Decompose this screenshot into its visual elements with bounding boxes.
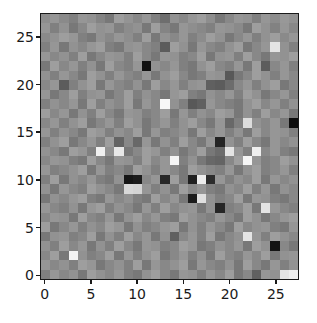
y-tick-mark [36,227,40,228]
y-tick-label: 25 [16,30,34,44]
x-tick-mark [275,280,276,284]
x-tick-label: 10 [128,287,146,301]
y-tick-label: 15 [16,125,34,139]
x-tick-label: 5 [86,287,95,301]
x-tick-label: 20 [221,287,239,301]
y-tick-mark [36,131,40,132]
y-tick-mark [36,179,40,180]
matplotlib-figure: 05101520250510152025 [0,0,317,323]
y-tick-label: 5 [25,221,34,235]
x-tick-mark [229,280,230,284]
y-tick-mark [36,275,40,276]
y-tick-label: 10 [16,173,34,187]
y-tick-label: 0 [25,268,34,282]
heatmap-axes [40,13,299,280]
heatmap-image [41,14,298,279]
y-tick-label: 20 [16,78,34,92]
x-tick-label: 25 [267,287,285,301]
x-tick-mark [136,280,137,284]
x-tick-label: 15 [174,287,192,301]
x-tick-mark [44,280,45,284]
y-tick-mark [36,84,40,85]
x-tick-mark [183,280,184,284]
x-tick-label: 0 [40,287,49,301]
y-tick-mark [36,36,40,37]
x-tick-mark [90,280,91,284]
